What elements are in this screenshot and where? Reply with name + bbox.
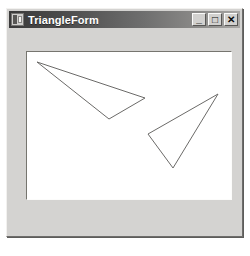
close-icon: ✕	[225, 15, 237, 25]
title-bar[interactable]: TriangleForm _ □ ✕	[9, 11, 240, 28]
window-title: TriangleForm	[28, 14, 99, 26]
triangle-upper-left	[37, 62, 145, 119]
client-area	[9, 29, 240, 234]
triangle-lower-right	[148, 94, 218, 168]
form-window-icon	[11, 13, 24, 26]
minimize-button[interactable]: _	[192, 13, 206, 26]
window-controls: _ □ ✕	[192, 13, 239, 26]
application-window[interactable]: TriangleForm _ □ ✕	[6, 8, 243, 237]
maximize-button[interactable]: □	[208, 13, 222, 26]
close-button[interactable]: ✕	[224, 13, 238, 26]
triangle-drawing-canvas[interactable]	[26, 51, 232, 200]
minimize-icon: _	[193, 14, 205, 24]
triangle-canvas-svg	[27, 52, 231, 199]
maximize-icon: □	[209, 15, 221, 25]
